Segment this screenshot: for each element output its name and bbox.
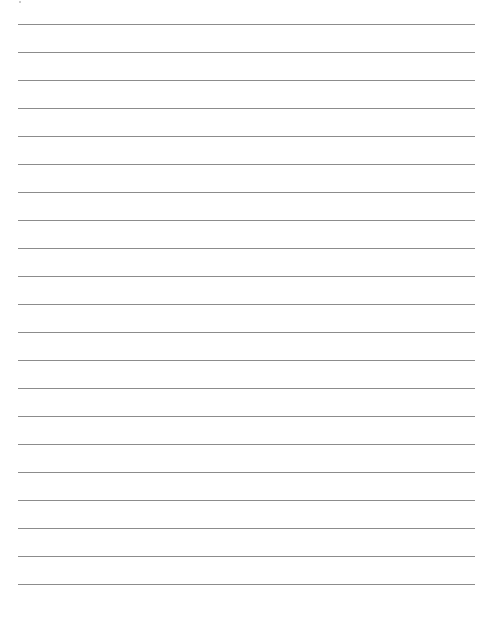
ruled-line [18, 388, 475, 389]
ruled-line [18, 108, 475, 109]
ruled-line [18, 276, 475, 277]
ruled-line [18, 52, 475, 53]
ruled-line [18, 220, 475, 221]
ruled-line [18, 472, 475, 473]
ruled-line [18, 416, 475, 417]
ruled-line [18, 584, 475, 585]
ruled-line [18, 360, 475, 361]
ruled-line [18, 24, 475, 25]
ruled-line [18, 332, 475, 333]
ruled-line [18, 556, 475, 557]
ruled-line [18, 528, 475, 529]
ruled-line [18, 80, 475, 81]
ruled-line [18, 248, 475, 249]
ruled-line [18, 500, 475, 501]
lined-paper-page [0, 0, 495, 643]
ruled-line [18, 136, 475, 137]
ruled-line [18, 164, 475, 165]
ruled-line [18, 304, 475, 305]
paper-speck [19, 1, 21, 3]
ruled-line [18, 192, 475, 193]
ruled-line [18, 444, 475, 445]
